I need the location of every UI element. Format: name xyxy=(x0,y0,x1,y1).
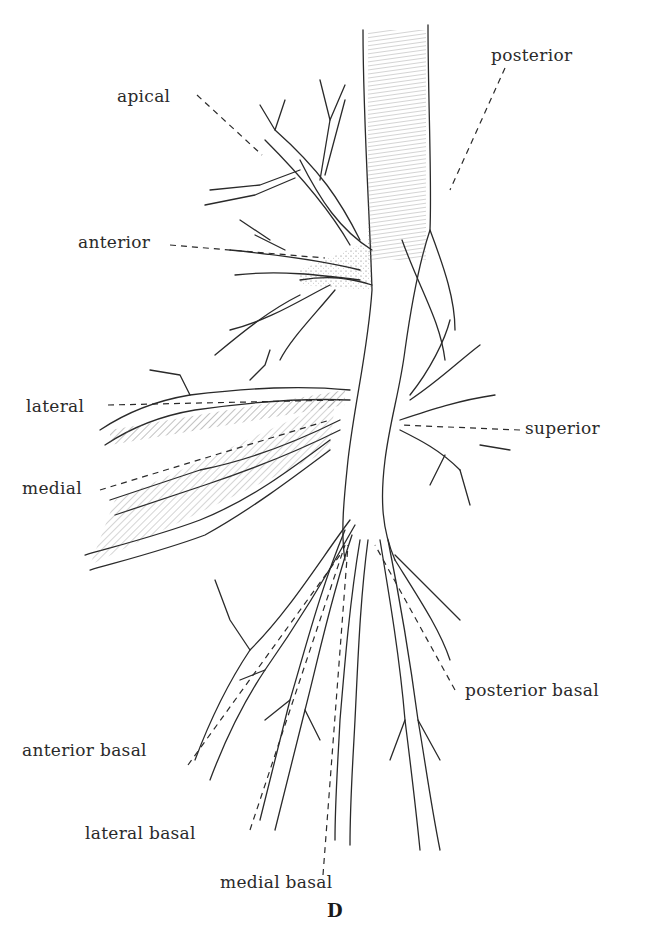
leader-superior xyxy=(400,425,520,430)
label-anterior: anterior xyxy=(78,232,150,252)
leader-anterior xyxy=(170,245,325,258)
bronchial-tree-figure: apical posterior anterior lateral superi… xyxy=(0,0,650,935)
label-lateral: lateral xyxy=(26,396,84,416)
label-posterior-basal: posterior basal xyxy=(465,680,599,700)
panel-letter: D xyxy=(327,900,343,921)
label-superior: superior xyxy=(525,418,600,438)
bronchial-tree-drawing xyxy=(0,0,650,935)
label-apical: apical xyxy=(117,86,170,106)
label-medial-basal: medial basal xyxy=(220,872,332,892)
leader-lateral-basal xyxy=(250,545,345,830)
leader-posterior-basal xyxy=(375,545,455,690)
label-medial: medial xyxy=(22,478,82,498)
label-anterior-basal: anterior basal xyxy=(22,740,147,760)
leader-posterior xyxy=(450,68,505,190)
label-lateral-basal: lateral basal xyxy=(85,823,196,843)
label-posterior: posterior xyxy=(491,45,572,65)
leader-apical xyxy=(197,95,262,155)
